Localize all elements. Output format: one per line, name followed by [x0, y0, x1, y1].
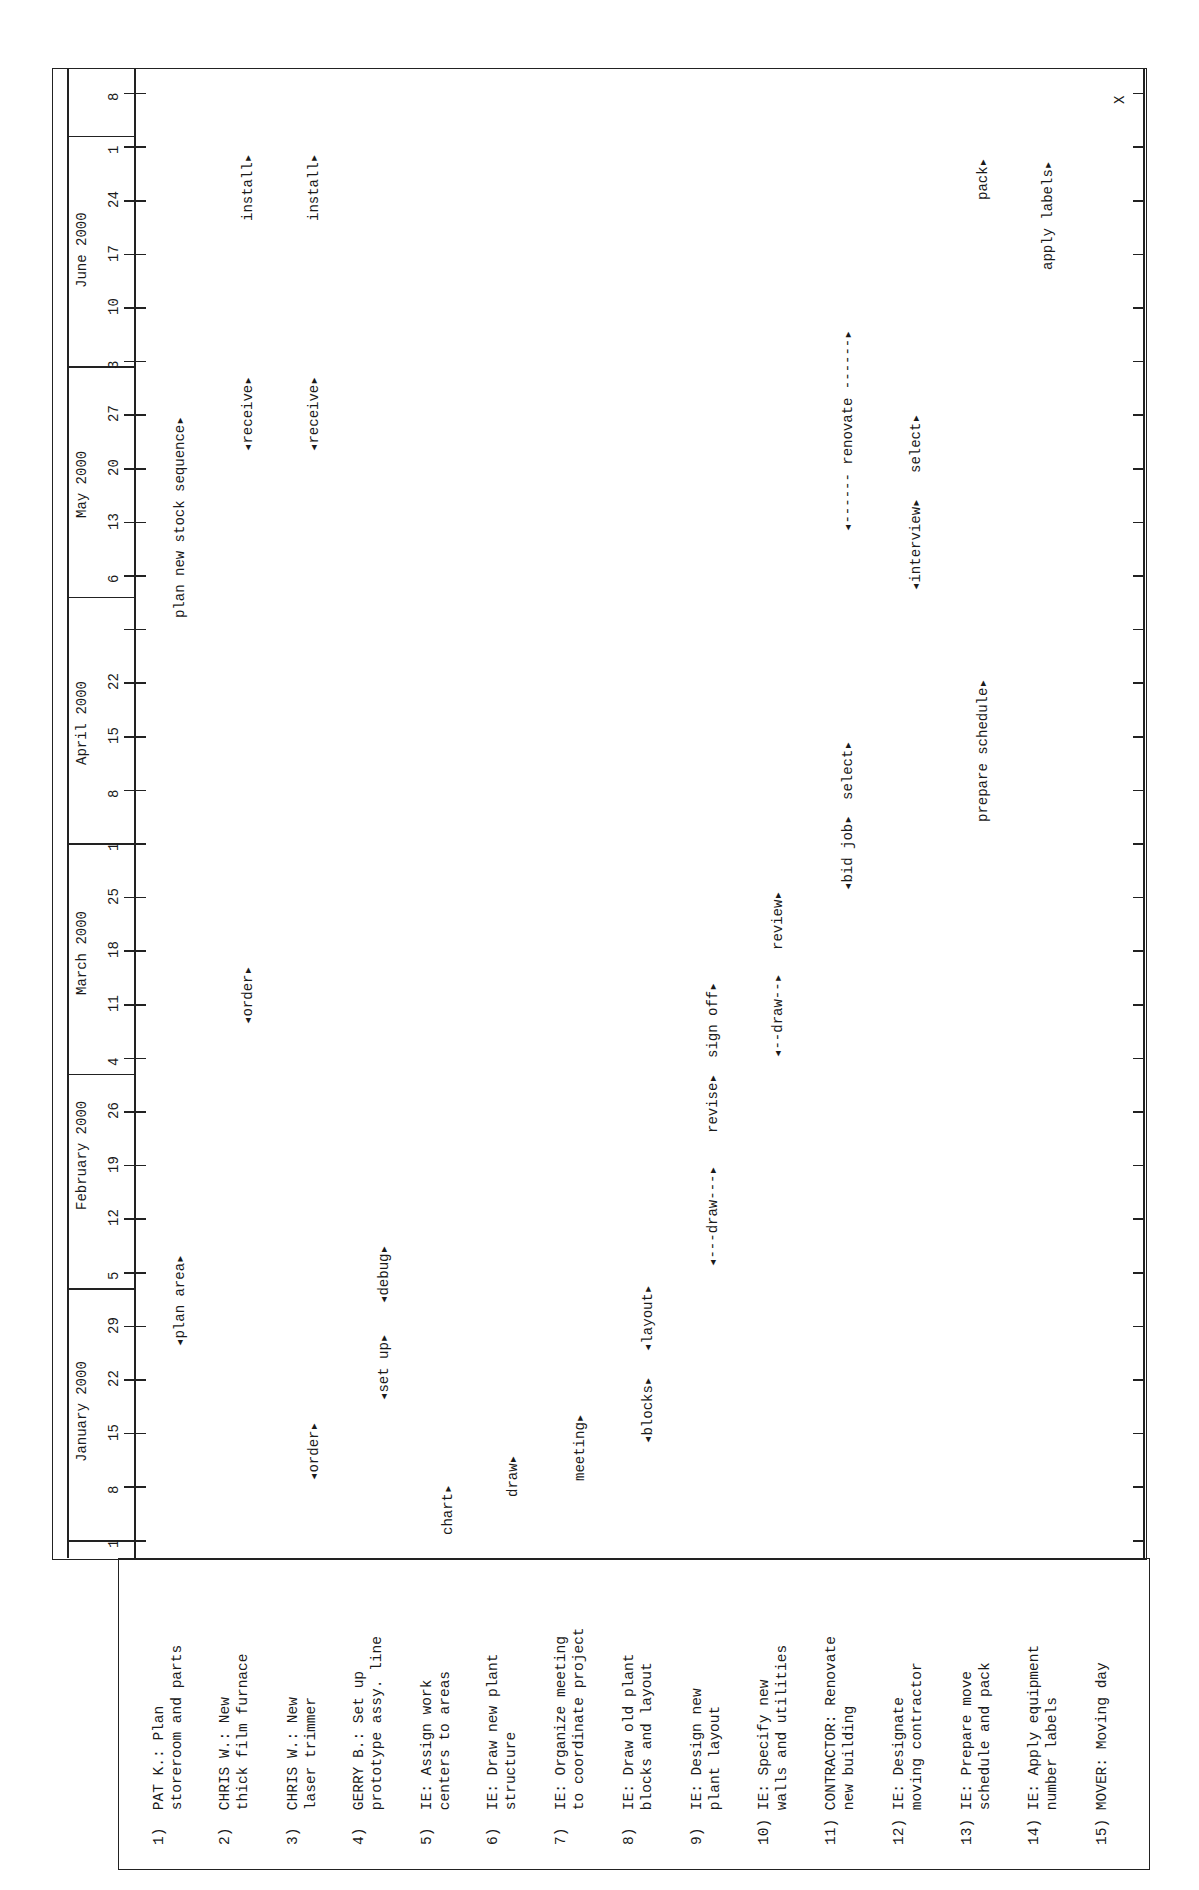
- tick-mark-right: [1133, 361, 1145, 363]
- tick-mark: [124, 736, 146, 738]
- tick-mark: [124, 1272, 146, 1274]
- month-divider: [67, 136, 134, 138]
- task-item: 12) IE: Designate moving contractor: [890, 1662, 926, 1845]
- tick-mark-right: [1133, 522, 1145, 524]
- tick-mark-right: [1133, 1379, 1145, 1381]
- gantt-bar-label: select▸: [840, 741, 856, 800]
- gantt-bar-label: ◂--draw--▸: [770, 974, 786, 1058]
- tick-label: 29: [106, 1317, 122, 1334]
- month-label: May 2000: [74, 451, 90, 518]
- tick-mark: [124, 1111, 146, 1113]
- task-item: 15) MOVER: Moving day: [1093, 1662, 1111, 1845]
- tick-mark-right: [1133, 843, 1145, 845]
- tick-mark: [124, 1326, 146, 1328]
- tick-label: 5: [106, 1272, 122, 1280]
- tick-label: 8: [106, 92, 122, 100]
- tick-mark: [124, 1165, 146, 1167]
- task-item: 7) IE: Organize meeting to coordinate pr…: [552, 1627, 588, 1845]
- task-item: 5) IE: Assign work centers to areas: [418, 1671, 454, 1845]
- tick-mark-right: [1133, 468, 1145, 470]
- tick-label: 22: [106, 674, 122, 691]
- gantt-bar-label: ◂blocks▸: [640, 1376, 656, 1443]
- tick-mark-right: [1133, 897, 1145, 899]
- tick-mark: [124, 1433, 146, 1435]
- task-item: 4) GERRY B.: Set up prototype assy. line: [350, 1636, 386, 1845]
- tick-mark-right: [1133, 1218, 1145, 1220]
- month-divider: [67, 1288, 134, 1290]
- tick-mark: [124, 897, 146, 899]
- gantt-bar-label: ◂layout▸: [640, 1285, 656, 1352]
- month-label: June 2000: [74, 212, 90, 288]
- gantt-bar-label: ◂------ renovate ------▸: [840, 331, 856, 533]
- gantt-bar-label: sign off▸: [705, 982, 721, 1058]
- tick-mark-right: [1133, 200, 1145, 202]
- tick-label: 8: [106, 1486, 122, 1494]
- tick-label: 3: [106, 360, 122, 368]
- gantt-bar-label: ◂set up▸: [376, 1333, 392, 1400]
- task-item: 9) IE: Design new plant layout: [688, 1688, 724, 1845]
- tick-label: 1: [106, 843, 122, 851]
- tick-mark-right: [1133, 1326, 1145, 1328]
- tick-mark: [124, 575, 146, 577]
- tick-mark-right: [1133, 1540, 1145, 1542]
- gantt-bar-label: ◂interview▸: [908, 499, 924, 591]
- tick-mark: [124, 1058, 146, 1060]
- tick-mark-right: [1133, 1486, 1145, 1488]
- tick-mark: [124, 629, 146, 631]
- tick-label: 4: [106, 1057, 122, 1065]
- tick-mark: [124, 1379, 146, 1381]
- tick-label: 27: [106, 406, 122, 423]
- gantt-bar-label: ◂receive▸: [240, 376, 256, 452]
- month-divider: [67, 366, 134, 368]
- gantt-bar-label: ◂bid job▸: [840, 816, 856, 892]
- tick-mark: [124, 682, 146, 684]
- tick-mark-right: [1133, 950, 1145, 952]
- tick-label: 26: [106, 1102, 122, 1119]
- task-item: 6) IE: Draw new plant structure: [484, 1654, 520, 1845]
- gantt-bar-label: meeting▸: [572, 1414, 588, 1481]
- tick-label: 10: [106, 298, 122, 315]
- tick-label: 17: [106, 245, 122, 262]
- tick-label: 13: [106, 513, 122, 530]
- tick-mark-right: [1133, 414, 1145, 416]
- task-item: 13) IE: Prepare move schedule and pack: [958, 1662, 994, 1845]
- month-divider: [67, 1074, 134, 1076]
- tick-label: 25: [106, 888, 122, 905]
- gantt-bar-label: select▸: [908, 415, 924, 474]
- gantt-bar-label: pack▸: [975, 158, 991, 200]
- gantt-bar-label: prepare schedule▸: [975, 679, 991, 822]
- gantt-bar-label: ◂receive▸: [306, 376, 322, 452]
- tick-label: 8: [106, 789, 122, 797]
- gantt-bar-label: ◂debug▸: [376, 1245, 392, 1304]
- tick-mark-right: [1133, 146, 1145, 148]
- gantt-bar-label: X: [1112, 95, 1128, 103]
- tick-mark-right: [1133, 736, 1145, 738]
- task-item: 3) CHRIS W.: New laser trimmer: [284, 1697, 320, 1845]
- tick-mark: [124, 93, 146, 95]
- tick-mark: [124, 307, 146, 309]
- tick-label: 24: [106, 191, 122, 208]
- tick-mark-right: [1133, 1004, 1145, 1006]
- tick-mark-right: [1133, 1433, 1145, 1435]
- tick-mark-right: [1133, 575, 1145, 577]
- task-item: 10) IE: Specify new walls and utilities: [755, 1645, 791, 1845]
- gantt-bar-label: install▸: [240, 154, 256, 221]
- month-divider: [67, 597, 134, 599]
- header-inner-border: [67, 68, 69, 1558]
- tick-mark: [124, 1486, 146, 1488]
- task-item: 2) CHRIS W.: New thick film furnace: [216, 1654, 252, 1845]
- tick-mark-right: [1133, 1111, 1145, 1113]
- tick-label: 11: [106, 995, 122, 1012]
- tick-mark-right: [1133, 254, 1145, 256]
- tick-mark: [124, 843, 146, 845]
- tick-mark-right: [1133, 682, 1145, 684]
- tick-mark-right: [1133, 307, 1145, 309]
- month-label: January 2000: [74, 1361, 90, 1462]
- gantt-bar-label: draw▸: [505, 1455, 521, 1497]
- gantt-bar-label: ◂order▸: [240, 967, 256, 1026]
- tick-mark-right: [1133, 1272, 1145, 1274]
- tick-label: 12: [106, 1210, 122, 1227]
- tick-mark: [124, 254, 146, 256]
- tick-label: 15: [106, 1424, 122, 1441]
- tick-mark: [124, 1004, 146, 1006]
